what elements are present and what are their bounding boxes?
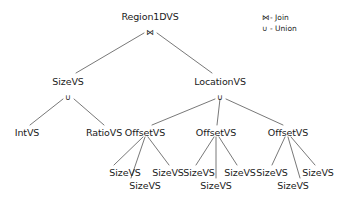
node-ratiovs[interactable]: RatioVS bbox=[86, 127, 122, 138]
node-leaf-sizevs-2b[interactable]: SizeVS bbox=[224, 167, 255, 178]
node-locationvs[interactable]: LocationVS bbox=[194, 76, 246, 87]
node-intvs[interactable]: IntVS bbox=[15, 127, 40, 138]
node-offsetvs-1[interactable]: OffsetVS bbox=[125, 127, 165, 138]
legend-union-label: Union bbox=[275, 24, 297, 33]
legend-join-separator: - bbox=[270, 13, 273, 22]
operator-join-root: ⋈ bbox=[146, 28, 154, 37]
operator-union-sizevs: ∪ bbox=[65, 93, 71, 102]
node-leaf-sizevs-3c[interactable]: SizeVS bbox=[277, 180, 308, 191]
legend-entry-join: ⋈- Join bbox=[262, 13, 297, 24]
node-leaf-sizevs-3b[interactable]: SizeVS bbox=[302, 167, 333, 178]
edge-offsetvs2-leaf-a bbox=[196, 137, 214, 165]
diagram-canvas: Region1DVS ⋈ SizeVS ∪ LocationVS ∪ IntVS… bbox=[0, 0, 354, 202]
node-leaf-sizevs-1b[interactable]: SizeVS bbox=[152, 167, 183, 178]
node-leaf-sizevs-2c[interactable]: SizeVS bbox=[200, 180, 231, 191]
node-leaf-sizevs-1a[interactable]: SizeVS bbox=[109, 167, 140, 178]
edge-sizevs-intvs bbox=[30, 99, 63, 125]
edge-sizevs-ratiovs bbox=[74, 99, 104, 125]
edge-offsetvs3-leaf-a bbox=[272, 137, 285, 165]
edge-offsetvs1-leaf-b bbox=[148, 137, 169, 165]
legend-join-label: Join bbox=[275, 13, 289, 22]
union-icon: ∪ bbox=[262, 24, 270, 35]
edge-root-sizevs bbox=[76, 33, 144, 73]
legend-entry-union: ∪- Union bbox=[262, 24, 297, 35]
legend-union-separator: - bbox=[270, 24, 273, 33]
edge-locationvs-offsetvs-2 bbox=[217, 99, 220, 125]
node-region1dvs[interactable]: Region1DVS bbox=[121, 11, 178, 22]
edge-offsetvs3-leaf-c bbox=[288, 137, 300, 178]
node-sizevs[interactable]: SizeVS bbox=[52, 76, 83, 87]
edge-root-locationvs bbox=[157, 33, 212, 73]
node-offsetvs-3[interactable]: OffsetVS bbox=[268, 127, 308, 138]
node-offsetvs-2[interactable]: OffsetVS bbox=[196, 127, 236, 138]
edge-locationvs-offsetvs-1 bbox=[152, 99, 215, 125]
edge-offsetvs1-leaf-a bbox=[114, 137, 143, 165]
node-leaf-sizevs-3a[interactable]: SizeVS bbox=[256, 167, 287, 178]
node-leaf-sizevs-2a[interactable]: SizeVS bbox=[183, 167, 214, 178]
operator-union-locationvs: ∪ bbox=[217, 93, 223, 102]
edge-offsetvs2-leaf-b bbox=[219, 137, 237, 165]
edge-locationvs-offsetvs-3 bbox=[226, 99, 283, 125]
join-icon: ⋈ bbox=[262, 13, 270, 24]
legend: ⋈- Join ∪- Union bbox=[262, 13, 297, 34]
node-leaf-sizevs-1c[interactable]: SizeVS bbox=[129, 180, 160, 191]
